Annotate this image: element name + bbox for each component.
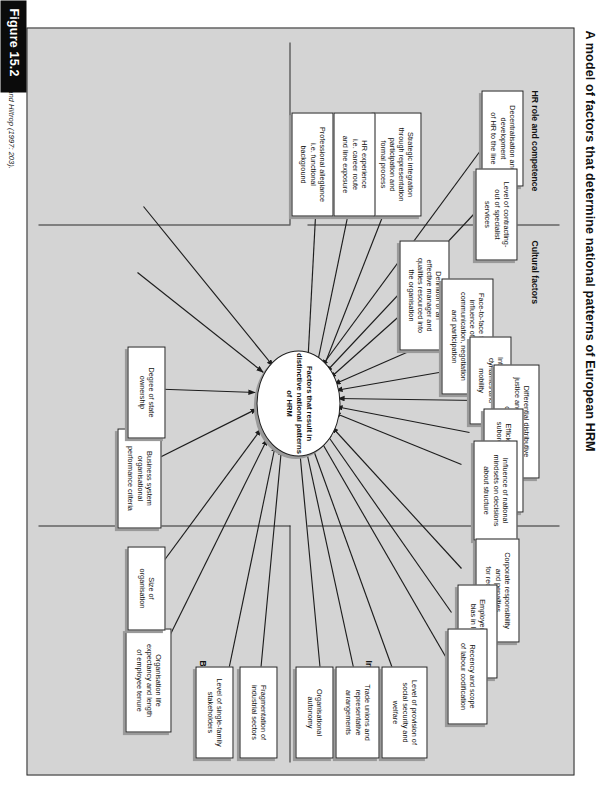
factor-line: Size of — [146, 568, 155, 608]
factor-line: ownership — [137, 367, 146, 417]
rotated-figure-wrapper: A model of factors that determine nation… — [0, 0, 604, 803]
factor-line: through representation — [396, 127, 405, 200]
factor-line: representative — [352, 684, 361, 741]
factor-line: stakeholders — [205, 678, 214, 746]
factor-box-trade-unions[interactable]: Trade unions andrepresentativearrangemen… — [335, 666, 379, 758]
figure-number-tab: Figure 15.2 — [0, 0, 26, 92]
hub-line-2: that result — [304, 395, 313, 432]
factor-line: autonomy — [305, 688, 314, 735]
factor-line: and line exposure — [340, 135, 349, 193]
factor-line: expectancy and length — [143, 643, 152, 716]
factor-line: of employee tenure — [134, 643, 143, 716]
factor-line: out of specialist — [491, 181, 500, 247]
factor-line: welfare — [390, 680, 399, 745]
figure-canvas: A model of factors that determine nation… — [0, 0, 604, 803]
factor-line: industrial sectors — [249, 684, 258, 739]
factor-line: i.e. career route — [349, 135, 358, 193]
factor-line: of labour codification — [458, 643, 467, 710]
factor-line: mindsets on decisions — [490, 454, 499, 526]
factor-line: effective manager and — [424, 257, 433, 332]
factor-line: Decentralisation and — [507, 105, 516, 172]
factor-box-strategic-integration[interactable]: Strategic integrationthrough representat… — [371, 112, 421, 216]
factor-line: mobility — [476, 356, 485, 403]
factor-box-single-family[interactable]: Level of single-familystakeholders — [195, 666, 233, 758]
factor-line: and participation — [449, 292, 458, 381]
diagram-panel-inner: Factors that result in distinctive natio… — [27, 28, 573, 774]
factor-box-national-mindsets[interactable]: Influence of nationalmindsets on decisio… — [473, 440, 517, 540]
factor-line: qualities resourced into — [415, 257, 424, 332]
figure-title: A model of factors that determine nation… — [582, 30, 596, 451]
diagram-panel: Factors that result in distinctive natio… — [26, 27, 574, 775]
factor-line: Professional allegiance — [317, 126, 326, 201]
factor-box-size-of-organisation[interactable]: Size oforganisation — [127, 546, 165, 630]
factor-line: of HR to the line — [488, 105, 497, 172]
factor-line: Organisation life — [153, 643, 162, 716]
central-hub: Factors that result in distinctive natio… — [256, 350, 340, 456]
factor-line: the organisation — [406, 257, 415, 332]
factor-line: Trade unions and — [362, 684, 371, 741]
factor-line: Level of single-family — [214, 678, 223, 746]
factor-line: formal process — [378, 127, 387, 200]
factor-line: Business system — [144, 446, 153, 511]
factor-line: Corporate responsibility — [502, 552, 511, 629]
factor-box-organisation-life[interactable]: Organisation lifeexpectancy and lengthof… — [125, 628, 171, 732]
factor-line: Organisational — [314, 688, 323, 735]
factor-line: Fragmentation of — [258, 684, 267, 739]
factor-line: organisational — [134, 446, 143, 511]
factor-line: development — [497, 105, 506, 172]
figure-number-label: Figure 15.2 — [6, 8, 20, 76]
factor-line: Strategic integration — [405, 127, 414, 200]
factor-line: participation and — [387, 127, 396, 200]
factor-line: i.e. functional — [307, 126, 316, 201]
factor-line: background — [298, 126, 307, 201]
hub-line-4: national patterns — [294, 392, 303, 453]
factor-box-organisational-autonomy[interactable]: Organisationalautonomy — [295, 666, 333, 758]
factor-line: communication, negotiation — [458, 292, 467, 381]
factor-line: Recency and scope — [467, 643, 476, 710]
hub-line-1: Factors — [304, 365, 313, 392]
factor-line: Degree of state — [146, 367, 155, 417]
factor-line: about structure — [481, 454, 490, 526]
factor-box-business-system[interactable]: Business systemorganisationalperformance… — [117, 428, 161, 528]
factor-line: organisation — [137, 568, 146, 608]
factor-line: Level of provision of — [409, 680, 418, 745]
factor-box-contracting-out[interactable]: Level of contracting-out of specialistse… — [475, 168, 517, 260]
factor-box-professional-allegiance[interactable]: Professional allegiancei.e. functionalba… — [291, 112, 333, 216]
factor-box-social-security[interactable]: Level of provision ofsocial security and… — [381, 666, 427, 758]
factor-line: services — [482, 181, 491, 247]
factor-line: Influence of national — [500, 454, 509, 526]
factor-box-fragmentation[interactable]: Fragmentation ofindustrial sectors — [239, 666, 277, 758]
factor-line: arrangements — [343, 684, 352, 741]
factor-line: social security and — [399, 680, 408, 745]
hub-line-5: of HRM — [284, 390, 293, 417]
factor-box-labour-codification[interactable]: Recency and scopeof labour codification — [447, 628, 487, 724]
factor-line: performance criteria — [125, 446, 134, 511]
factor-line: Level of contracting- — [501, 181, 510, 247]
factor-box-state-ownership[interactable]: Degree of stateownership — [127, 346, 165, 438]
factor-line: HR experience — [359, 135, 368, 193]
factor-box-hr-experience[interactable]: HR experiencei.e. career routeand line e… — [333, 112, 375, 216]
